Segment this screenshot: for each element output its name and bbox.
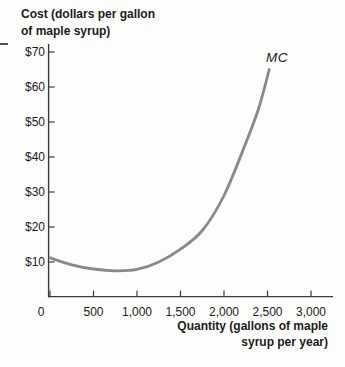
y-tick-label: $10 <box>5 255 45 269</box>
y-tick-label: $50 <box>5 115 45 129</box>
x-tick-label: 0 <box>18 305 64 319</box>
mc-curve-figure: Cost (dollars per gallon of maple syrup)… <box>0 0 345 367</box>
mc-curve <box>50 70 269 271</box>
x-tick-label: 1,000 <box>114 305 160 319</box>
y-tick-label: $70 <box>5 45 45 59</box>
x-axis-title-line2: syrup per year) <box>177 335 328 351</box>
y-tick-label: $40 <box>5 150 45 164</box>
x-axis-title-line1: Quantity (gallons of maple <box>177 319 328 335</box>
x-tick-label: 2,000 <box>201 305 247 319</box>
x-tick-label: 3,000 <box>288 305 334 319</box>
y-tick-label: $60 <box>5 80 45 94</box>
x-axis-title: Quantity (gallons of maple syrup per yea… <box>177 319 328 350</box>
y-tick-label: $30 <box>5 185 45 199</box>
x-tick-label: 2,500 <box>245 305 291 319</box>
x-tick-label: 1,500 <box>158 305 204 319</box>
y-tick-label: $20 <box>5 220 45 234</box>
mc-curve-label: MC <box>266 50 288 65</box>
x-tick-label: 500 <box>71 305 117 319</box>
